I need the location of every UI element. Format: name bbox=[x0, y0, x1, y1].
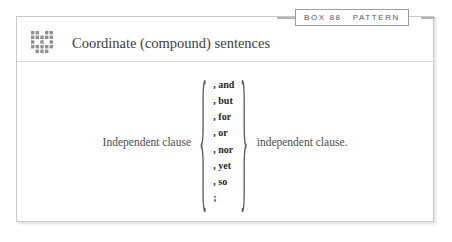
pattern-grid-icon bbox=[30, 30, 56, 56]
tab-connector-left bbox=[277, 17, 296, 19]
tab-connector-right bbox=[421, 17, 435, 19]
conjunction-item: , but bbox=[213, 93, 232, 109]
conjunction-item: , yet bbox=[213, 158, 231, 174]
left-clause-label: Independent clause bbox=[103, 136, 191, 148]
conjunction-item: ; bbox=[213, 190, 216, 206]
conjunction-item: , so bbox=[213, 174, 227, 190]
conjunction-item: , for bbox=[213, 109, 231, 125]
box-number-label: BOX 88 bbox=[304, 13, 342, 22]
conjunction-item: , or bbox=[213, 125, 227, 141]
right-clause-label: independent clause. bbox=[257, 136, 348, 148]
sentence-pattern-diagram: Independent clause { , and, but, for, or… bbox=[17, 62, 433, 221]
conjunction-item: , and bbox=[213, 77, 234, 93]
conjunction-list: , and, but, for, or, nor, yet, so; bbox=[212, 77, 235, 207]
title-row: Coordinate (compound) sentences bbox=[17, 26, 433, 60]
conjunction-item: , nor bbox=[213, 142, 233, 158]
box-header-tab: BOX 88 PATTERN bbox=[295, 9, 409, 26]
box-category-label: PATTERN bbox=[353, 13, 400, 22]
